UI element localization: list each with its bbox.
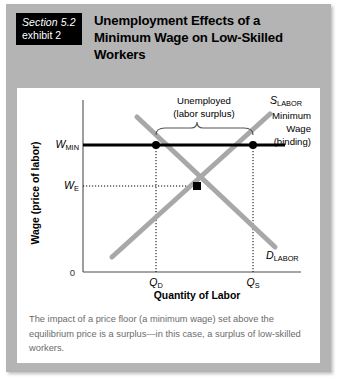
origin-label: 0 <box>70 267 75 278</box>
exhibit-caption: The impact of a price floor (a minimum w… <box>17 303 320 363</box>
x-axis-title: Quantity of Labor <box>154 290 241 301</box>
x-tick-qs: QS <box>246 276 259 290</box>
qs-marker <box>249 141 257 149</box>
minimum-wage-label-line1: Minimum <box>272 110 311 121</box>
exhibit-number-label: exhibit 2 <box>22 29 77 42</box>
supply-demand-chart: Wage (price of labor) Quantity of Labor … <box>17 88 320 303</box>
minimum-wage-label-line2: Wage <box>286 123 311 134</box>
equilibrium-marker <box>193 182 201 190</box>
y-tick-we: WE <box>64 179 79 193</box>
minimum-wage-label-line3: (binding) <box>274 136 311 147</box>
y-tick-wmin: WMIN <box>55 138 79 152</box>
demand-curve-label: DLABOR <box>266 249 299 263</box>
surplus-brace <box>156 122 253 135</box>
supply-curve-label: SLABOR <box>270 94 302 108</box>
exhibit-container: Section 5.2 exhibit 2 Unemployment Effec… <box>6 4 331 372</box>
x-tick-qd: QD <box>149 276 163 290</box>
exhibit-title: Unemployment Effects of a Minimum Wage o… <box>94 12 319 63</box>
y-axis-title: Wage (price of labor) <box>30 142 41 245</box>
demand-curve <box>137 117 275 247</box>
qd-marker <box>152 141 160 149</box>
exhibit-header: Section 5.2 exhibit 2 Unemployment Effec… <box>6 4 331 88</box>
exhibit-section-label: Section 5.2 <box>22 16 77 29</box>
surplus-label-line1: Unemployed <box>177 95 231 106</box>
chart-panel: Wage (price of labor) Quantity of Labor … <box>17 88 320 303</box>
exhibit-tag: Section 5.2 exhibit 2 <box>16 13 82 45</box>
surplus-label-line2: (labor surplus) <box>173 108 234 119</box>
supply-curve <box>112 114 270 257</box>
